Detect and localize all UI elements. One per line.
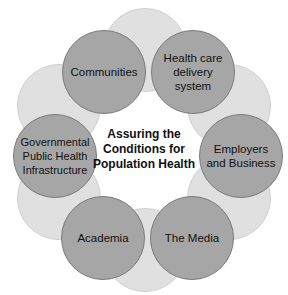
node-label: Academia — [77, 231, 128, 245]
node-label: Governmental Public Health Infrastructur… — [18, 135, 92, 177]
center-title-line-3: Population Health — [84, 157, 204, 172]
node-the-media: The Media — [150, 196, 234, 280]
center-title-line-2: Conditions for — [84, 142, 204, 157]
center-title: Assuring the Conditions for Population H… — [84, 127, 204, 172]
node-label: Employers and Business — [205, 142, 277, 170]
node-health-care-delivery-system: Health care delivery system — [151, 30, 235, 114]
node-employers-and-business: Employers and Business — [199, 114, 283, 198]
center-title-line-1: Assuring the — [84, 127, 204, 142]
node-label: Communities — [70, 65, 137, 79]
node-label: Health care delivery system — [158, 51, 228, 93]
node-label: The Media — [165, 231, 219, 245]
node-academia: Academia — [61, 196, 145, 280]
node-communities: Communities — [62, 30, 146, 114]
